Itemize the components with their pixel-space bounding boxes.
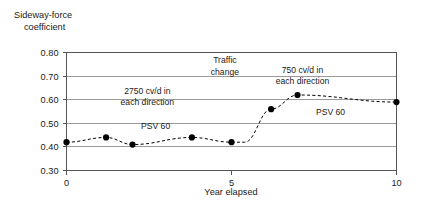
- y-tick-label: 0.50: [41, 119, 59, 129]
- y-tick-label: 0.60: [41, 95, 59, 105]
- gridlines: [67, 76, 397, 147]
- series-line: [67, 95, 397, 145]
- data-point: [63, 139, 69, 145]
- x-tick-label: 0: [64, 178, 69, 188]
- data-series: [63, 92, 399, 148]
- y-tick-label: 0.80: [41, 48, 59, 58]
- annotation-line: Traffic: [213, 55, 237, 65]
- y-axis-title: Sideway-force coefficient: [14, 10, 72, 32]
- annotation-left-traffic-volume: 2750 cv/d ineach direction: [121, 86, 175, 108]
- annotation-psv-left: PSV 60: [141, 121, 170, 131]
- x-tick-label: 10: [391, 178, 401, 188]
- chart-annotations: Trafficchange2750 cv/d ineach direction7…: [121, 55, 346, 131]
- y-axis-ticks: 0.300.400.500.600.700.80: [41, 48, 67, 176]
- annotation-line: each direction: [121, 97, 175, 107]
- y-axis-title-line2: coefficient: [24, 22, 66, 32]
- data-point: [268, 106, 274, 112]
- chart-canvas: Sideway-force coefficient 0.300.400.500.…: [0, 0, 422, 207]
- annotation-line: change: [211, 67, 239, 77]
- y-tick-label: 0.30: [41, 166, 59, 176]
- y-tick-label: 0.70: [41, 72, 59, 82]
- y-axis-title-line1: Sideway-force: [14, 10, 72, 20]
- data-point: [294, 92, 300, 98]
- chart-figure: Sideway-force coefficient 0.300.400.500.…: [0, 0, 422, 207]
- data-point: [129, 141, 135, 147]
- data-point: [103, 134, 109, 140]
- data-point: [228, 139, 234, 145]
- annotation-line: PSV 60: [141, 121, 170, 131]
- x-axis-ticks: 0510: [64, 171, 402, 188]
- annotation-line: 2750 cv/d in: [124, 86, 171, 96]
- annotation-right-traffic-volume: 750 cv/d ineach direction: [276, 65, 330, 87]
- data-point: [189, 134, 195, 140]
- annotation-psv-right: PSV 60: [316, 107, 345, 117]
- y-tick-label: 0.40: [41, 142, 59, 152]
- x-axis-title: Year elapsed: [204, 187, 257, 197]
- annotation-line: 750 cv/d in: [282, 65, 324, 75]
- annotation-line: PSV 60: [316, 107, 345, 117]
- annotation-line: each direction: [276, 76, 330, 86]
- x-tick-label: 5: [229, 178, 234, 188]
- annotation-traffic-change: Trafficchange: [211, 55, 239, 77]
- data-point: [393, 99, 399, 105]
